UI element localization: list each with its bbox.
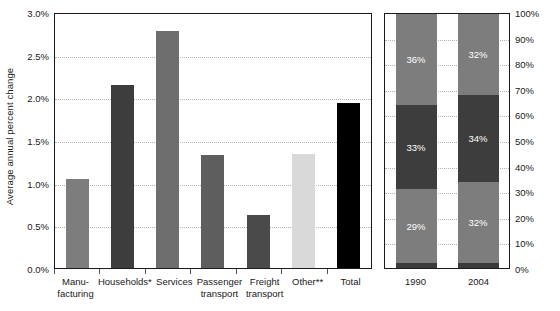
bar-total[interactable] bbox=[337, 103, 360, 268]
x-axis-category-label: Services bbox=[153, 276, 196, 300]
stack-segment-top[interactable]: 36% bbox=[396, 14, 437, 105]
y-axis-tick-label: 3.0% bbox=[27, 8, 49, 19]
bar-series-left bbox=[55, 14, 371, 268]
plot-area-right: 36%33%29%32%34%32% bbox=[384, 13, 510, 269]
category-label-line1: Other** bbox=[287, 276, 328, 288]
stack-segment-value-label: 32% bbox=[468, 49, 487, 60]
category-label-line1: Households* bbox=[98, 276, 152, 288]
y-axis-tick-label: 40% bbox=[515, 161, 534, 172]
category-label-line1: Passenger bbox=[197, 276, 242, 288]
stack-segment-bottom[interactable]: 29% bbox=[396, 189, 437, 263]
stacked-bar-2004[interactable]: 32%34%32% bbox=[458, 14, 499, 268]
bar-services[interactable] bbox=[156, 31, 179, 268]
x-axis-tick bbox=[190, 269, 235, 275]
left-bar-chart-panel: Average annual percent change 0.0%0.5%1.… bbox=[0, 0, 378, 311]
bar-slot bbox=[326, 14, 371, 268]
y-axis-tick-label: 2.0% bbox=[27, 93, 49, 104]
x-axis-category-label: Passengertransport bbox=[196, 276, 243, 300]
y-axis-tick-label: 20% bbox=[515, 212, 534, 223]
category-label-line1: Services bbox=[154, 276, 195, 288]
stacked-bar-series-right: 36%33%29%32%34%32% bbox=[385, 14, 509, 268]
y-axis-tick-label: 0.0% bbox=[27, 264, 49, 275]
x-axis-tick bbox=[99, 269, 144, 275]
bar-slot bbox=[190, 14, 235, 268]
x-axis-tick bbox=[281, 269, 326, 275]
x-axis-category-label: Households* bbox=[97, 276, 153, 300]
bar-slot bbox=[100, 14, 145, 268]
y-axis-tick-label: 0% bbox=[515, 264, 529, 275]
category-label-line1: Manu- bbox=[55, 276, 96, 288]
y-axis-tick-label: 80% bbox=[515, 59, 534, 70]
x-axis-category-label: Freighttransport bbox=[243, 276, 286, 300]
y-axis-tick-label: 30% bbox=[515, 187, 534, 198]
category-label-line1: Total bbox=[330, 276, 371, 288]
x-axis-category-label: 2004 bbox=[447, 276, 510, 288]
x-axis-tick bbox=[327, 269, 372, 275]
stack-segment-value-label: 36% bbox=[406, 54, 425, 65]
bar-passengertransport[interactable] bbox=[201, 155, 224, 268]
category-label-line1: Freight bbox=[244, 276, 285, 288]
x-axis-tick bbox=[236, 269, 281, 275]
y-axis-title-left-text: Average annual percent change bbox=[5, 67, 16, 204]
bar-slot bbox=[55, 14, 100, 268]
x-axis-category-label: Total bbox=[329, 276, 372, 300]
y-axis-tick-label: 1.0% bbox=[27, 178, 49, 189]
bar-freighttransport[interactable] bbox=[247, 215, 270, 268]
y-axis-tick-label: 90% bbox=[515, 33, 534, 44]
stack-segment-middle[interactable]: 34% bbox=[458, 95, 499, 181]
stack-segment-top[interactable]: 32% bbox=[458, 14, 499, 95]
stack-slot: 36%33%29% bbox=[385, 14, 447, 268]
category-label-line2: transport bbox=[244, 288, 285, 300]
x-axis-category-label: 1990 bbox=[384, 276, 447, 288]
x-axis-ticks-left bbox=[54, 269, 372, 275]
y-axis-tick-label: 50% bbox=[515, 136, 534, 147]
x-axis-tick bbox=[145, 269, 190, 275]
stack-slot: 32%34%32% bbox=[447, 14, 509, 268]
x-axis-category-labels-left: Manu-facturingHouseholds*ServicesPasseng… bbox=[54, 276, 372, 300]
bar-slot bbox=[145, 14, 190, 268]
y-axis-tick-label: 100% bbox=[515, 8, 539, 19]
y-axis-tick-label: 10% bbox=[515, 238, 534, 249]
x-axis-category-labels-right: 19902004 bbox=[384, 276, 510, 288]
right-stacked-chart-panel: 36%33%29%32%34%32% 0%10%20%30%40%50%60%7… bbox=[384, 0, 560, 311]
stack-segment-value-label: 32% bbox=[468, 217, 487, 228]
stack-segment-base[interactable] bbox=[458, 263, 499, 268]
x-axis-tick bbox=[54, 269, 99, 275]
bar-slot bbox=[281, 14, 326, 268]
category-label-line2: facturing bbox=[55, 288, 96, 300]
y-axis-tick-label: 0.5% bbox=[27, 221, 49, 232]
bar-households[interactable] bbox=[111, 85, 134, 268]
stack-segment-value-label: 33% bbox=[406, 142, 425, 153]
x-axis-category-label: Other** bbox=[286, 276, 329, 300]
y-axis-tick-labels-left: 0.0%0.5%1.0%1.5%2.0%2.5%3.0% bbox=[16, 0, 52, 272]
stack-segment-base[interactable] bbox=[396, 263, 437, 268]
stack-segment-value-label: 34% bbox=[468, 133, 487, 144]
y-axis-tick-label: 70% bbox=[515, 84, 534, 95]
x-axis-category-label: Manu-facturing bbox=[54, 276, 97, 300]
stack-segment-bottom[interactable]: 32% bbox=[458, 182, 499, 263]
bar-other[interactable] bbox=[292, 154, 315, 268]
plot-area-left bbox=[54, 13, 372, 269]
y-axis-tick-labels-right: 0%10%20%30%40%50%60%70%80%90%100% bbox=[512, 0, 558, 272]
y-axis-tick-label: 1.5% bbox=[27, 136, 49, 147]
stack-segment-middle[interactable]: 33% bbox=[396, 105, 437, 189]
figure-container: Average annual percent change 0.0%0.5%1.… bbox=[0, 0, 560, 311]
stacked-bar-1990[interactable]: 36%33%29% bbox=[396, 14, 437, 268]
y-axis-tick-label: 2.5% bbox=[27, 50, 49, 61]
bar-manu-facturing[interactable] bbox=[66, 179, 89, 268]
y-axis-tick-label: 60% bbox=[515, 110, 534, 121]
bar-slot bbox=[236, 14, 281, 268]
category-label-line2: transport bbox=[197, 288, 242, 300]
stack-segment-value-label: 29% bbox=[406, 221, 425, 232]
